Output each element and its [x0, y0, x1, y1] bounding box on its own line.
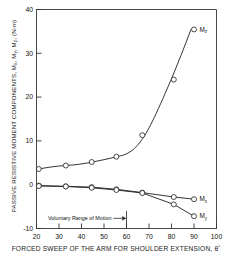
x-tick-label: 50	[100, 233, 108, 240]
x-axis-title: FORCED SWEEP OF THE ARM FOR SHOULDER EXT…	[0, 245, 232, 252]
series-my-markers	[36, 184, 196, 219]
data-point	[171, 77, 176, 82]
series-mz-markers	[36, 27, 196, 172]
series-label-mx-sub: x	[205, 199, 208, 204]
data-point	[89, 160, 94, 165]
y-tick-label: -10	[23, 225, 33, 232]
data-point	[63, 184, 68, 189]
x-tick-labels: 20 30 40 50 60 70 80 90 100	[33, 233, 223, 240]
y-tick-label: 10	[25, 137, 33, 144]
y-axis-ticks	[37, 10, 42, 229]
y-axis-title-sub-z: z	[13, 40, 18, 42]
x-tick-label: 60	[123, 233, 131, 240]
data-point	[36, 184, 41, 189]
plot-frame	[37, 10, 217, 229]
y-axis-title: PASSIVE RESISTIVE MOMENT COMPONENTS, Mx,…	[10, 16, 18, 216]
data-point	[140, 133, 145, 138]
x-tick-label: 20	[33, 233, 41, 240]
y-axis-title-mid2: , M	[10, 42, 17, 51]
data-point	[63, 163, 68, 168]
y-axis-title-main: PASSIVE RESISTIVE MOMENT COMPONENTS, M	[10, 65, 17, 212]
x-axis-title-degree: °	[218, 245, 220, 250]
series-mz: Mz	[36, 26, 208, 172]
voluntary-range-label: Voluntary Range of Motion	[48, 215, 112, 221]
data-point	[192, 197, 197, 202]
data-point	[114, 154, 119, 159]
voluntary-range-arrow-icon	[114, 216, 127, 221]
series-label-mz: Mz	[200, 26, 208, 35]
y-axis-title-sub-y: y	[13, 51, 18, 53]
y-tick-label: 40	[25, 6, 33, 13]
figure: 40 30 20 10 0 -10 20 30 40 50 60 70 80 9…	[0, 0, 232, 259]
data-point	[192, 214, 197, 219]
series-label-mx: Mx	[200, 195, 208, 204]
x-tick-label: 70	[145, 233, 153, 240]
y-axis-title-mid1: , M	[10, 54, 17, 63]
x-axis-title-main: FORCED SWEEP OF THE ARM FOR SHOULDER EXT…	[12, 245, 215, 252]
series-label-my-sub: y	[205, 216, 208, 221]
y-tick-labels: 40 30 20 10 0 -10	[23, 6, 33, 232]
data-point	[140, 191, 145, 196]
x-tick-label: 100	[211, 233, 223, 240]
x-tick-label: 30	[55, 233, 63, 240]
y-tick-label: 30	[25, 50, 33, 57]
series-label-mz-sub: z	[205, 29, 208, 34]
data-point	[114, 188, 119, 193]
x-tick-label: 40	[78, 233, 86, 240]
chart-svg: 40 30 20 10 0 -10 20 30 40 50 60 70 80 9…	[0, 0, 232, 259]
x-tick-label: 80	[168, 233, 176, 240]
data-point	[192, 27, 197, 32]
y-axis-title-tail: , (N-m)	[10, 20, 17, 40]
annotation-voluntary-range-of-motion: Voluntary Range of Motion	[48, 211, 127, 229]
y-axis-title-sub-x: x	[13, 62, 18, 64]
data-point	[171, 202, 176, 207]
series-mz-line	[39, 29, 191, 169]
data-point	[171, 195, 176, 200]
data-point	[36, 167, 41, 172]
y-tick-label: 20	[25, 93, 33, 100]
y-tick-label: 0	[29, 181, 33, 188]
series-label-my: My	[200, 212, 208, 221]
data-point	[89, 185, 94, 190]
x-tick-label: 90	[190, 233, 198, 240]
